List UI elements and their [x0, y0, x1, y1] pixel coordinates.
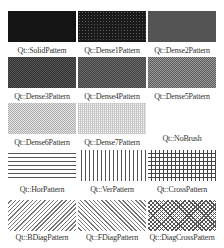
- pattern-label: Qt::Dense6Pattern: [4, 138, 80, 147]
- pattern-label: Qt::VerPattern: [74, 185, 150, 194]
- pattern-label: Qt::DiagCrossPattern: [144, 233, 220, 242]
- pattern-swatch-hor: [8, 150, 76, 181]
- pattern-swatch-bdiag: [8, 200, 76, 231]
- pattern-label: Qt::Dense1Pattern: [74, 46, 150, 55]
- pattern-swatch-dense7: [78, 103, 146, 134]
- pattern-label: Qt::NoBrush: [144, 134, 220, 143]
- pattern-swatch-fdiag: [78, 200, 146, 231]
- pattern-label: Qt::SolidPattern: [4, 46, 80, 55]
- pattern-label: Qt::FDiagPattern: [74, 233, 150, 242]
- pattern-swatch-dense6: [8, 103, 76, 134]
- pattern-label: Qt::Dense5Pattern: [144, 92, 220, 101]
- pattern-label: Qt::HorPattern: [4, 185, 80, 194]
- pattern-swatch-dense4: [78, 57, 146, 88]
- pattern-swatch-solid: [8, 11, 76, 42]
- pattern-label: Qt::Dense3Pattern: [4, 92, 80, 101]
- pattern-swatch-dense1: [78, 11, 146, 42]
- pattern-label: Qt::Dense2Pattern: [144, 46, 220, 55]
- pattern-label: Qt::BDiagPattern: [4, 233, 80, 242]
- pattern-swatch-dense3: [8, 57, 76, 88]
- pattern-swatch-dense2: [148, 11, 216, 42]
- pattern-swatch-dense5: [148, 57, 216, 88]
- pattern-swatch-cross: [148, 150, 216, 181]
- pattern-label: Qt::Dense7Pattern: [74, 138, 150, 147]
- pattern-swatch-nobrush: [148, 103, 216, 134]
- pattern-swatch-diagcross: [148, 200, 216, 231]
- pattern-swatch-ver: [78, 150, 146, 181]
- pattern-label: Qt::Dense4Pattern: [74, 92, 150, 101]
- pattern-label: Qt::CrossPattern: [144, 185, 220, 194]
